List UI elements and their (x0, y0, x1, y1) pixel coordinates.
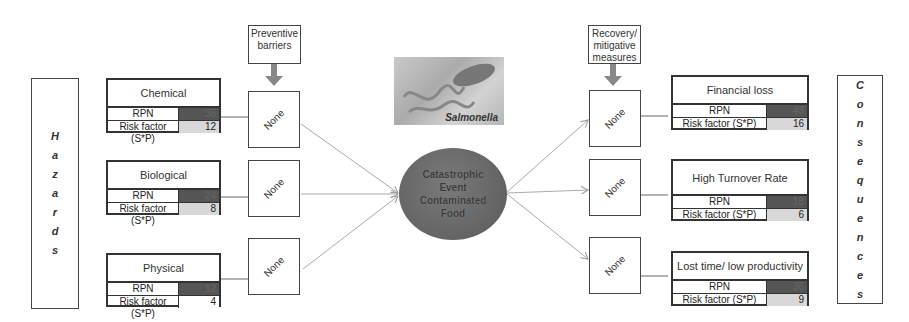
consequences-letter: n (857, 228, 864, 247)
measure-none-text: None (603, 106, 628, 131)
risk-value: 4 (179, 296, 219, 308)
rpn-value: 48 (767, 105, 807, 117)
risk-value: 9 (767, 294, 807, 306)
salmonella-image: Salmonella (394, 57, 504, 125)
barrier-none-text: None (262, 176, 287, 201)
hazards-letter: a (52, 184, 58, 203)
hazards-panel: H a z a r d s (31, 78, 79, 309)
rpn-value: 12 (179, 283, 219, 295)
event-text: Catastrophic Event Contaminated Food (420, 168, 487, 220)
risk-label: Risk factor (S*P) (673, 294, 767, 306)
consequences-letter: e (857, 152, 863, 171)
recovery-measure-box: None (589, 159, 641, 216)
hazard-title: Biological (108, 162, 219, 190)
risk-label: Risk factor (S*P) (108, 203, 179, 215)
hazards-letter: H (51, 127, 59, 146)
risk-value: 12 (179, 121, 219, 133)
hazard-card-chemical: Chemical RPN36 Risk factor (S*P)12 (106, 78, 221, 133)
risk-label: Risk factor (S*P) (673, 209, 767, 221)
rpn-label: RPN (673, 281, 767, 293)
hazards-letter: a (52, 146, 58, 165)
barrier-none-text: None (262, 254, 287, 279)
rpn-label: RPN (108, 190, 179, 202)
preventive-barrier-box: None (248, 160, 300, 217)
rpn-label: RPN (108, 283, 179, 295)
consequence-card-financial-loss: Financial loss RPN48 Risk factor (S*P)16 (671, 75, 809, 130)
consequences-letter: e (857, 209, 863, 228)
consequences-letter: s (857, 285, 863, 304)
hazard-card-physical: Physical RPN12 Risk factor (S*P)4 (106, 253, 221, 307)
hazard-title: Chemical (108, 80, 219, 108)
preventive-barriers-label: Preventive barriers (248, 25, 301, 64)
consequences-panel: C o n s e q u e n c e s (837, 75, 883, 304)
consequences-letter: s (857, 133, 863, 152)
risk-value: 16 (767, 118, 807, 130)
hazards-letter: r (53, 203, 57, 222)
consequence-card-high-turnover: High Turnover Rate RPN18 Risk factor (S*… (671, 159, 809, 221)
rpn-value: 24 (179, 190, 219, 202)
consequences-letter: c (857, 247, 863, 266)
consequences-letter: n (857, 114, 864, 133)
hazards-letter: z (52, 165, 58, 184)
rpn-label: RPN (673, 196, 767, 208)
consequence-title: High Turnover Rate (673, 161, 807, 196)
risk-label: Risk factor (S*P) (108, 296, 179, 308)
rpn-label: RPN (673, 105, 767, 117)
consequence-card-lost-time: Lost time/ low productivity RPN36 Risk f… (671, 251, 809, 306)
rpn-value: 36 (767, 281, 807, 293)
hazard-title: Physical (108, 255, 219, 283)
recovery-measures-label: Recovery/ mitigative measures (588, 25, 641, 64)
recovery-measure-box: None (589, 237, 641, 294)
preventive-barrier-box: None (248, 91, 300, 148)
consequences-letter: C (856, 76, 864, 95)
rpn-value: 18 (767, 196, 807, 208)
risk-label: Risk factor (S*P) (673, 118, 767, 130)
consequences-letter: u (857, 190, 864, 209)
measure-none-text: None (603, 253, 628, 278)
consequence-title: Financial loss (673, 77, 807, 105)
consequences-letter: e (857, 266, 863, 285)
barrier-none-text: None (262, 107, 287, 132)
consequences-letter: o (857, 95, 864, 114)
consequences-letter: q (857, 171, 864, 190)
hazard-card-biological: Biological RPN24 Risk factor (S*P)8 (106, 160, 221, 215)
rpn-value: 36 (179, 108, 219, 120)
rpn-label: RPN (108, 108, 179, 120)
risk-value: 8 (179, 203, 219, 215)
risk-value: 6 (767, 209, 807, 221)
hazards-letter: s (52, 241, 58, 260)
risk-label: Risk factor (S*P) (108, 121, 179, 133)
preventive-barrier-box: None (248, 238, 300, 295)
consequence-title: Lost time/ low productivity (673, 253, 807, 281)
salmonella-caption: Salmonella (445, 112, 498, 123)
recovery-measure-box: None (589, 90, 641, 147)
catastrophic-event-node: Catastrophic Event Contaminated Food (399, 148, 507, 240)
hazards-letter: d (52, 222, 59, 241)
measure-none-text: None (603, 175, 628, 200)
